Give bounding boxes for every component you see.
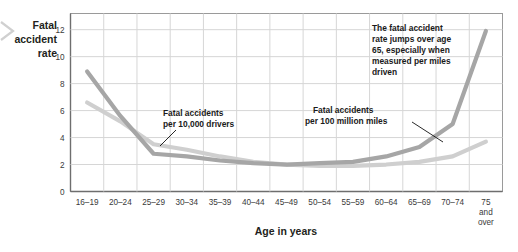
annotation-callout-line5: driven	[372, 67, 397, 77]
x-tick-label: and	[479, 208, 493, 217]
x-tick-label: 50–54	[308, 198, 331, 207]
annotation-miles-line1: Fatal accidents	[313, 105, 374, 115]
x-tick-label: 70–74	[441, 198, 464, 207]
fatal-accident-rate-chart: Fatal accident rate 024681012 16–1920–24…	[0, 0, 518, 252]
series-fatal-accidents-per-10000-drivers	[87, 103, 486, 166]
x-tick-label: 40–44	[242, 198, 265, 207]
x-tick-label: 60–64	[375, 198, 398, 207]
x-tick-label: 75	[481, 198, 491, 207]
y-tick-label: 0	[60, 188, 65, 197]
x-tick-label: 55–59	[342, 198, 365, 207]
annotation-per-10000-drivers: Fatal accidents per 10,000 drivers	[160, 108, 235, 146]
y-tick-label: 12	[55, 26, 65, 35]
x-tick-labels: 16–1920–2425–2930–3435–3940–4445–4950–54…	[76, 198, 494, 227]
annotation-drivers-line2: per 10,000 drivers	[163, 119, 235, 129]
x-axis-title: Age in years	[255, 225, 318, 237]
y-tick-label: 10	[55, 53, 65, 62]
chevron-right-icon	[1, 22, 13, 40]
x-tick-label: 35–39	[209, 198, 232, 207]
y-tick-label: 6	[60, 107, 65, 116]
annotation-callout-line4: measured per miles	[372, 56, 451, 66]
x-tick-label: over	[478, 218, 494, 227]
y-tick-label: 2	[60, 161, 65, 170]
x-tick-label: 30–34	[175, 198, 198, 207]
x-tick-label: 16–19	[76, 198, 99, 207]
annotation-callout-age-65: The fatal accident rate jumps over age 6…	[372, 23, 451, 77]
x-tick-label: 65–69	[408, 198, 431, 207]
x-tick-label: 45–49	[275, 198, 298, 207]
y-tick-label: 4	[60, 134, 65, 143]
y-axis-title-line3: rate	[38, 47, 57, 59]
y-tick-label: 8	[60, 80, 65, 89]
x-tick-label: 25–29	[142, 198, 165, 207]
annotation-callout-line3: 65, especially when	[372, 45, 450, 55]
annotation-miles-line2: per 100 million miles	[305, 116, 388, 126]
annotation-callout-line1: The fatal accident	[372, 23, 443, 33]
y-axis-title-line1: Fatal	[32, 19, 57, 31]
y-axis-title: Fatal accident rate	[14, 19, 57, 59]
y-axis-title-line2: accident	[14, 33, 57, 45]
annotation-callout-line2: rate jumps over age	[372, 34, 451, 44]
x-tick-label: 20–24	[109, 198, 132, 207]
annotation-drivers-line1: Fatal accidents	[163, 108, 224, 118]
